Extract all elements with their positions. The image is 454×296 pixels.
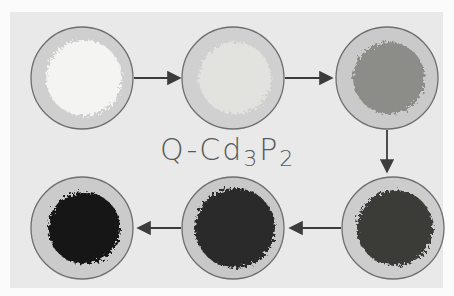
- compound-label: Q-Cd3P2: [160, 132, 295, 171]
- sample-2-dish: [182, 27, 284, 129]
- sample-6-dish: [31, 177, 133, 279]
- sample-3-dish: [336, 27, 438, 129]
- powder-sample: [195, 188, 275, 268]
- label-prefix: Q-Cd: [160, 132, 243, 167]
- sample-5-dish: [182, 177, 284, 279]
- powder-sample: [353, 42, 425, 114]
- label-subscript-3: 3: [243, 146, 259, 171]
- sample-4-dish: [342, 177, 444, 279]
- powder-sample: [357, 190, 433, 266]
- label-p: P: [259, 132, 279, 167]
- powder-sample: [48, 192, 120, 264]
- powder-sample: [46, 40, 122, 116]
- sample-1-dish: [31, 27, 133, 129]
- powder-sample: [199, 42, 271, 114]
- label-subscript-2: 2: [279, 146, 295, 171]
